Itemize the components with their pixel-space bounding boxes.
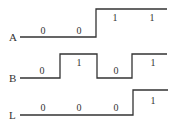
signal-b: B 0 1 0 1 [9, 54, 167, 84]
bit-value: 0 [77, 25, 82, 36]
bit-value: 1 [77, 57, 82, 68]
signal-a: A 0 0 1 1 [9, 9, 167, 43]
bit-value: 0 [77, 102, 82, 113]
bit-value: 0 [41, 102, 46, 113]
bit-value: 1 [151, 95, 156, 106]
timing-diagram: A 0 0 1 1 B 0 1 0 1 L 0 0 0 1 [0, 0, 178, 128]
bit-value: 0 [114, 65, 119, 76]
bit-value: 1 [151, 57, 156, 68]
bit-value: 0 [40, 65, 45, 76]
signal-label: A [9, 31, 17, 43]
signal-l: L 0 0 0 1 [9, 90, 168, 121]
bit-value: 1 [113, 12, 118, 23]
signal-label: B [9, 72, 16, 84]
signal-label: L [9, 109, 16, 121]
bit-value: 0 [114, 102, 119, 113]
bit-value: 1 [150, 12, 155, 23]
bit-value: 0 [41, 25, 46, 36]
